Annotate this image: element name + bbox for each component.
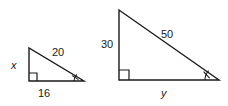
small-triangle-hypotenuse-label: 20	[52, 47, 64, 58]
large-triangle-outline	[119, 10, 219, 80]
large-right-angle-marker	[119, 70, 129, 80]
large-right-triangle	[119, 10, 219, 80]
small-triangle-vertical-leg-label: x	[11, 60, 17, 71]
geometry-figure: x 20 16 30 50 y	[0, 0, 228, 106]
large-triangle-hypotenuse-label: 50	[161, 29, 173, 40]
large-triangle-vertical-leg-label: 30	[101, 39, 113, 50]
large-triangle-base-label: y	[161, 88, 167, 99]
small-right-angle-marker	[29, 73, 37, 81]
small-triangle-base-label: 16	[38, 88, 50, 99]
triangles-drawing	[0, 0, 228, 106]
